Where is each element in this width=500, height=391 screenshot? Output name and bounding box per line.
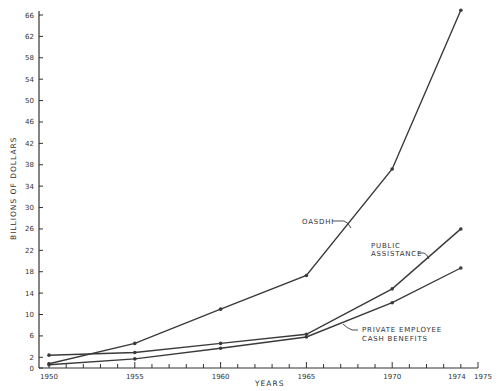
data-point (133, 342, 137, 346)
x-tick-label: 1970 (383, 373, 401, 381)
y-axis-title: BILLIONS OF DOLLARS (9, 137, 18, 241)
data-point (133, 357, 137, 361)
data-point (219, 342, 223, 346)
data-point (133, 351, 137, 355)
data-point (390, 301, 394, 305)
y-tick-label: 10 (25, 311, 34, 319)
x-tick-label: 1975 (474, 373, 492, 381)
y-tick-label: 54 (25, 76, 34, 84)
y-tick-label: 50 (25, 97, 34, 105)
data-point (47, 363, 51, 367)
y-tick-label: 18 (25, 268, 34, 276)
y-tick-label: 22 (25, 247, 34, 255)
y-tick-label: 34 (25, 183, 34, 191)
series-lines (47, 8, 462, 366)
x-tick-label: 1955 (126, 373, 144, 381)
data-point (390, 287, 394, 291)
y-tick-label: 6 (30, 332, 35, 340)
y-tick-label: 46 (25, 118, 34, 126)
y-tick-label: 14 (25, 290, 34, 298)
y-tick-label: 66 (25, 12, 34, 20)
data-point (459, 266, 463, 270)
data-point (305, 274, 309, 278)
annotation-public-assistance-line2: ASSISTANCE (371, 250, 422, 258)
data-point (459, 227, 463, 231)
line-chart: 026101418222630343842465054586266 195019… (0, 0, 500, 391)
annotations: OASDHIPUBLICASSISTANCEPRIVATE EMPLOYEECA… (302, 218, 442, 343)
annotation-public-assistance: PUBLIC (371, 242, 401, 250)
series-line-0 (49, 10, 461, 364)
data-point (390, 167, 394, 171)
y-tick-label: 38 (25, 161, 34, 169)
y-tick-label: 42 (25, 140, 34, 148)
data-point (305, 335, 309, 339)
x-axis-title: YEARS (254, 379, 284, 388)
x-tick-label: 1965 (297, 373, 315, 381)
y-tick-label: 2 (30, 354, 34, 362)
data-point (459, 8, 463, 12)
y-tick-label: 58 (25, 54, 34, 62)
annotation-oasdhi: OASDHI (302, 218, 334, 226)
x-tick-label: 1974 (448, 373, 466, 381)
annotation-private-employee-line2: CASH BENEFITS (362, 335, 428, 343)
x-tick-label: 1960 (212, 373, 230, 381)
data-point (219, 307, 223, 311)
data-point (47, 353, 51, 357)
y-axis: 026101418222630343842465054586266 (25, 11, 43, 373)
y-tick-label: 30 (25, 204, 34, 212)
y-tick-label: 26 (25, 225, 34, 233)
x-tick-label: 1950 (40, 373, 58, 381)
annotation-private-employee: PRIVATE EMPLOYEE (362, 326, 442, 334)
data-point (219, 346, 223, 350)
y-tick-label: 62 (25, 33, 34, 41)
y-tick-label: 0 (30, 365, 34, 373)
